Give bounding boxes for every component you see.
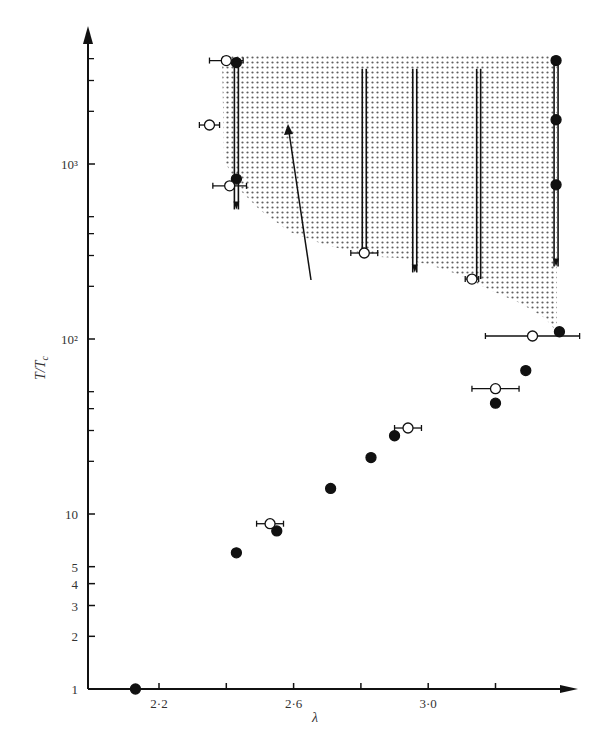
chart: 123451010²10³ 2·22·63·0 T/Tc λ bbox=[0, 0, 608, 752]
filled-point bbox=[551, 56, 561, 66]
y-axis bbox=[83, 26, 93, 689]
filled-point bbox=[390, 431, 400, 441]
y-tick-label: 10 bbox=[65, 507, 78, 522]
filled-point bbox=[326, 483, 336, 493]
y-ticks: 123451010²10³ bbox=[61, 59, 95, 697]
open-point bbox=[467, 274, 477, 284]
filled-point bbox=[231, 548, 241, 558]
x-axis bbox=[88, 685, 578, 693]
y-tick-label: 10² bbox=[61, 332, 78, 347]
filled-point bbox=[231, 58, 241, 68]
y-tick-label: 10³ bbox=[61, 157, 78, 172]
open-point bbox=[221, 56, 231, 66]
y-tick-label: 4 bbox=[72, 577, 79, 592]
open-point bbox=[359, 248, 369, 258]
x-ticks: 2·22·63·0 bbox=[150, 683, 495, 711]
filled-point bbox=[366, 453, 376, 463]
x-axis-label: λ bbox=[311, 710, 318, 725]
filled-point bbox=[521, 366, 531, 376]
x-tick-label: 2·2 bbox=[150, 696, 167, 711]
filled-point bbox=[130, 684, 140, 694]
y-tick-label: 5 bbox=[72, 560, 79, 575]
open-point bbox=[528, 331, 538, 341]
y-tick-label: 3 bbox=[72, 599, 79, 614]
y-axis-label: T/Tc bbox=[33, 355, 50, 379]
open-point bbox=[204, 120, 214, 130]
filled-point bbox=[551, 115, 561, 125]
y-tick-label: 2 bbox=[72, 629, 79, 644]
filled-point bbox=[554, 327, 564, 337]
filled-point bbox=[491, 398, 501, 408]
x-tick-label: 2·6 bbox=[285, 696, 303, 711]
open-point bbox=[491, 384, 501, 394]
filled-point bbox=[551, 180, 561, 190]
y-tick-label: 1 bbox=[72, 682, 79, 697]
open-point bbox=[403, 423, 413, 433]
open-point bbox=[265, 519, 275, 529]
shaded-region bbox=[222, 55, 557, 332]
open-point bbox=[225, 181, 235, 191]
x-tick-label: 3·0 bbox=[420, 696, 437, 711]
